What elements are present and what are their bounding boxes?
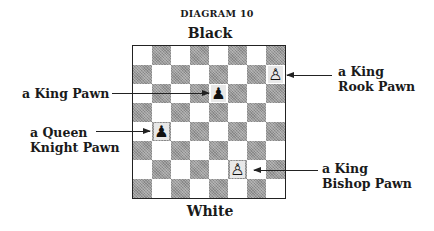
square-f1 bbox=[228, 179, 247, 198]
label-king-rook-pawn-line2: Rook Pawn bbox=[338, 79, 415, 94]
square-h5 bbox=[266, 103, 285, 122]
square-h6 bbox=[266, 84, 285, 103]
square-b1 bbox=[152, 179, 171, 198]
square-f4 bbox=[228, 122, 247, 141]
square-a1 bbox=[133, 179, 152, 198]
chess-board: ♙♟♟♙ bbox=[132, 45, 286, 199]
label-king-rook-pawn: a King Rook Pawn bbox=[338, 64, 415, 94]
square-a7 bbox=[133, 65, 152, 84]
square-b4: ♟ bbox=[152, 122, 171, 141]
square-d1 bbox=[190, 179, 209, 198]
black-pawn-icon: ♟ bbox=[211, 84, 225, 103]
square-g6 bbox=[247, 84, 266, 103]
label-king-bishop-pawn-line1: a King bbox=[322, 161, 412, 176]
label-king-pawn-text: a King Pawn bbox=[22, 86, 109, 101]
square-f6 bbox=[228, 84, 247, 103]
square-b8 bbox=[152, 46, 171, 65]
square-c8 bbox=[171, 46, 190, 65]
square-h3 bbox=[266, 141, 285, 160]
square-f5 bbox=[228, 103, 247, 122]
square-e3 bbox=[209, 141, 228, 160]
square-h1 bbox=[266, 179, 285, 198]
square-a8 bbox=[133, 46, 152, 65]
square-f8 bbox=[228, 46, 247, 65]
square-d7 bbox=[190, 65, 209, 84]
square-c2 bbox=[171, 160, 190, 179]
square-a3 bbox=[133, 141, 152, 160]
label-king-pawn: a King Pawn bbox=[22, 86, 109, 101]
square-a5 bbox=[133, 103, 152, 122]
square-b2 bbox=[152, 160, 171, 179]
square-e2 bbox=[209, 160, 228, 179]
arrow-king-bishop-pawn bbox=[254, 170, 318, 171]
side-label-white: White bbox=[0, 203, 420, 219]
square-c1 bbox=[171, 179, 190, 198]
diagram-title: DIAGRAM 10 bbox=[0, 8, 434, 19]
square-f3 bbox=[228, 141, 247, 160]
label-king-bishop-pawn-line2: Bishop Pawn bbox=[322, 176, 412, 191]
square-f2: ♙ bbox=[228, 160, 247, 179]
square-g4 bbox=[247, 122, 266, 141]
square-h7: ♙ bbox=[266, 65, 285, 84]
square-e5 bbox=[209, 103, 228, 122]
piece-background: ♙ bbox=[268, 66, 283, 83]
square-b7 bbox=[152, 65, 171, 84]
black-pawn-icon: ♟ bbox=[154, 122, 168, 141]
square-h8 bbox=[266, 46, 285, 65]
label-queen-knight-pawn-line1: a Queen bbox=[30, 125, 120, 140]
square-c4 bbox=[171, 122, 190, 141]
piece-background: ♟ bbox=[154, 123, 169, 140]
square-h4 bbox=[266, 122, 285, 141]
square-b5 bbox=[152, 103, 171, 122]
square-e4 bbox=[209, 122, 228, 141]
square-d4 bbox=[190, 122, 209, 141]
square-c7 bbox=[171, 65, 190, 84]
square-b3 bbox=[152, 141, 171, 160]
square-f7 bbox=[228, 65, 247, 84]
arrow-queen-knight-pawn bbox=[96, 131, 150, 132]
label-queen-knight-pawn-line2: Knight Pawn bbox=[30, 140, 120, 155]
square-g5 bbox=[247, 103, 266, 122]
piece-background: ♙ bbox=[230, 161, 245, 178]
square-d5 bbox=[190, 103, 209, 122]
label-queen-knight-pawn: a Queen Knight Pawn bbox=[30, 125, 120, 155]
square-e8 bbox=[209, 46, 228, 65]
square-d3 bbox=[190, 141, 209, 160]
side-label-black: Black bbox=[0, 25, 420, 41]
white-pawn-icon: ♙ bbox=[268, 65, 282, 84]
square-e6: ♟ bbox=[209, 84, 228, 103]
white-pawn-icon: ♙ bbox=[230, 160, 244, 179]
piece-background: ♟ bbox=[211, 85, 226, 102]
square-e1 bbox=[209, 179, 228, 198]
square-g3 bbox=[247, 141, 266, 160]
square-c5 bbox=[171, 103, 190, 122]
arrow-king-pawn bbox=[112, 93, 209, 94]
arrow-king-rook-pawn bbox=[287, 75, 332, 76]
square-d2 bbox=[190, 160, 209, 179]
square-a2 bbox=[133, 160, 152, 179]
square-g7 bbox=[247, 65, 266, 84]
label-king-bishop-pawn: a King Bishop Pawn bbox=[322, 161, 412, 191]
square-d8 bbox=[190, 46, 209, 65]
square-g8 bbox=[247, 46, 266, 65]
square-e7 bbox=[209, 65, 228, 84]
label-king-rook-pawn-line1: a King bbox=[338, 64, 415, 79]
square-g1 bbox=[247, 179, 266, 198]
square-c3 bbox=[171, 141, 190, 160]
